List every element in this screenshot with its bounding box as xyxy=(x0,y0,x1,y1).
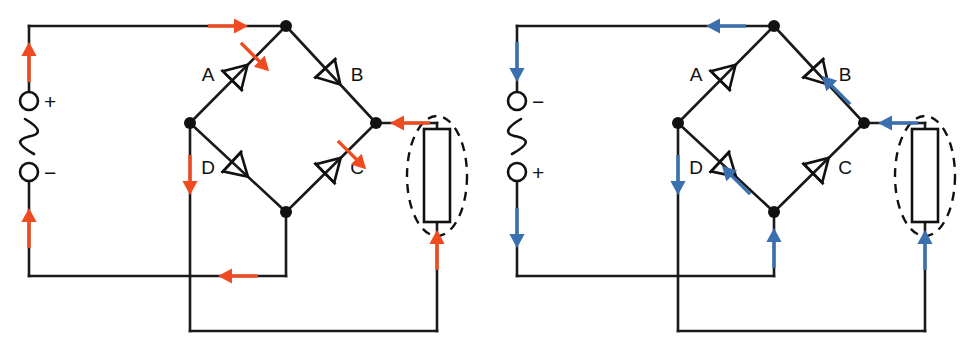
arrow-bottom-wire-head xyxy=(218,268,232,283)
diode-c-label: C xyxy=(838,157,852,178)
arrow-source-bottom-head xyxy=(509,234,524,248)
source-terminal-bottom[interactable] xyxy=(508,163,526,181)
source-terminal-top[interactable] xyxy=(20,92,38,110)
junction-node-top xyxy=(768,20,780,32)
arrow-source-bottom xyxy=(21,208,36,248)
arrow-bottom-stub xyxy=(766,228,781,268)
junction-node-left xyxy=(184,117,196,129)
load-resistor xyxy=(912,129,938,222)
source-terminal-top-label: − xyxy=(532,90,544,113)
source-terminal-bottom-label: − xyxy=(44,161,56,184)
arrow-left-node-down-head xyxy=(182,181,197,195)
arrow-source-top-head xyxy=(21,42,36,56)
arrow-right-wire-head xyxy=(878,115,892,130)
junction-node-bottom xyxy=(280,206,292,218)
diode-c: C xyxy=(803,157,852,185)
source-terminal-bottom-label: + xyxy=(532,161,544,184)
ac-source-sine-symbol xyxy=(20,119,38,154)
arrow-source-top-head xyxy=(509,68,524,82)
diode-b: B xyxy=(314,58,363,84)
arrow-top-wire-head xyxy=(234,18,248,33)
arrow-through-diode-d-shaft xyxy=(730,174,750,194)
circuit-figure: +−ABCD−+ABCD xyxy=(0,0,976,345)
source-terminal-top[interactable] xyxy=(508,92,526,110)
diode-a-label: A xyxy=(202,64,215,85)
arrow-through-diode-b-shaft xyxy=(830,84,850,104)
source-terminal-bottom[interactable] xyxy=(20,163,38,181)
arrow-through-load-head xyxy=(917,230,932,244)
arrow-bottom-stub-head xyxy=(766,228,781,242)
arrow-source-bottom-head xyxy=(21,208,36,222)
junction-node-right xyxy=(858,117,870,129)
right-circuit: −+ABCD xyxy=(508,18,955,331)
diode-b-label: B xyxy=(839,64,852,85)
left-circuit: +−ABCD xyxy=(20,18,467,331)
arrow-through-diode-a-shaft xyxy=(241,43,261,63)
arrow-through-load-head xyxy=(429,230,444,244)
junction-node-right xyxy=(370,117,382,129)
arrow-right-wire-head xyxy=(390,115,404,130)
source-terminal-top-label: + xyxy=(44,90,56,113)
arrow-bottom-wire xyxy=(218,268,258,283)
arrow-source-bottom xyxy=(509,208,524,248)
junction-node-left xyxy=(672,117,684,129)
arrow-through-diode-d xyxy=(722,166,750,194)
diode-b-label: B xyxy=(351,64,364,85)
arrow-left-node-down xyxy=(182,155,197,195)
arrow-left-node-down xyxy=(670,155,685,195)
arrow-top-wire-head xyxy=(706,18,720,33)
arrow-source-top xyxy=(21,42,36,82)
arrow-source-top xyxy=(509,42,524,82)
circuit-diagram-canvas: +−ABCD−+ABCD xyxy=(0,0,976,345)
diode-d-label: D xyxy=(201,157,215,178)
ac-source-sine-symbol xyxy=(508,119,526,154)
load-resistor xyxy=(424,129,450,222)
arrow-top-wire xyxy=(208,18,248,33)
diode-a-label: A xyxy=(690,64,703,85)
arrow-left-node-down-head xyxy=(670,181,685,195)
junction-node-bottom xyxy=(768,206,780,218)
arrow-top-wire xyxy=(706,18,746,33)
junction-node-top xyxy=(280,20,292,32)
diode-d-label: D xyxy=(689,157,703,178)
